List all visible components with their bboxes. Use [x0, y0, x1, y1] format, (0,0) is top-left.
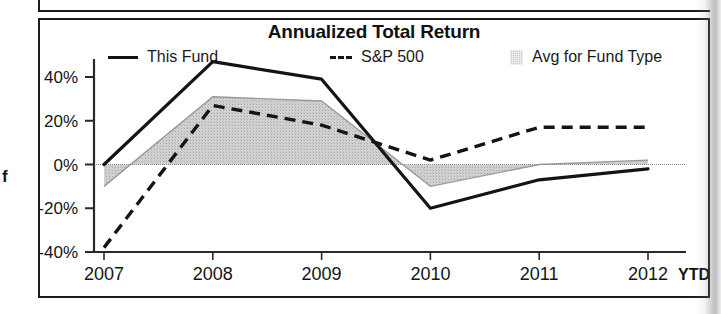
y-tick-label: 0% [53, 156, 78, 175]
x-tick-label: 2008 [193, 264, 233, 284]
y-tick-label: 40% [44, 68, 78, 87]
x-axis-ytd-label: YTD [678, 266, 710, 283]
page-rule-above-chart [38, 0, 710, 12]
x-tick-label: 2007 [84, 264, 124, 284]
y-tick-label: -40% [40, 243, 78, 262]
x-axis-tick-labels: 200720082009201020112012YTD [84, 264, 710, 284]
y-axis-tick-labels: 40%20%0%-20%-40% [40, 68, 78, 262]
chart-frame: Annualized Total Return This Fund S&P 50… [38, 18, 710, 298]
margin-partial-glyph: f [2, 168, 8, 185]
chart-plot-svg: 40%20%0%-20%-40% 20072008200920102011201… [40, 20, 712, 300]
x-tick-label: 2010 [410, 264, 450, 284]
y-tick-label: 20% [44, 112, 78, 131]
plot-area: 40%20%0%-20%-40% 20072008200920102011201… [40, 20, 712, 300]
y-tick-label: -20% [40, 199, 78, 218]
x-tick-label: 2011 [520, 264, 559, 284]
x-tick-label: 2012 [628, 264, 668, 284]
x-tick-label: 2009 [302, 264, 342, 284]
